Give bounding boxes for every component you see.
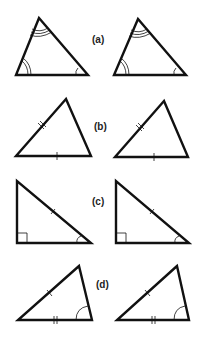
triangle-d-left	[18, 266, 92, 324]
triangle-c-left	[17, 181, 91, 243]
triangle-c-right	[116, 181, 189, 243]
pair-label-a: (a)	[92, 34, 104, 45]
pair-label-c: (c)	[92, 196, 104, 207]
pair-label-b: (b)	[94, 121, 107, 132]
triangle-b-left	[16, 99, 91, 160]
triangle-b-right	[115, 101, 188, 161]
triangle-a-left	[16, 18, 88, 75]
triangle-a-right	[114, 19, 186, 75]
pair-label-d: (d)	[96, 279, 109, 290]
triangle-d-right	[117, 266, 189, 324]
